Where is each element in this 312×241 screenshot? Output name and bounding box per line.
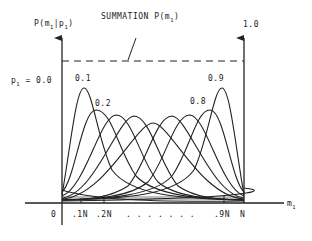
x-tick-ellipsis: . . . . . . . [126,210,195,219]
y-axis-label: P(m1|p1) [34,19,74,30]
x-tick-0.9N: .9N [214,210,230,219]
x-tick-0.2N: .2N [96,210,112,219]
p1-zero-label: p1 = 0.0 [11,76,52,87]
probability-diagram: P(m1|p1) SUMMATION P(m1) 1.0 p1 = 0.0 0.… [0,0,312,241]
curve-label-0.8: 0.8 [190,97,206,106]
curve-label-0.2: 0.2 [95,99,111,108]
curve-p-0.9 [62,88,244,200]
right-axis-value: 1.0 [243,20,259,29]
summation-label: SUMMATION P(m1) [101,12,179,23]
x-tick-0.1N: .1N [72,210,88,219]
x-axis-label: m1 [287,199,296,210]
x-tick-0: 0 [51,210,56,219]
x-tick-N: N [240,210,245,219]
curve-label-0.1: 0.1 [75,74,91,83]
summation-pointer [128,38,136,60]
curve-label-0.9: 0.9 [208,74,224,83]
curve-p-0.1 [62,88,244,200]
distribution-curves [62,88,254,201]
